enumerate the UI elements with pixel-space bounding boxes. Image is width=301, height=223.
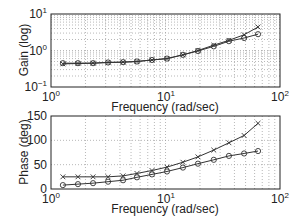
phase-xlabel: Frequency (rad/sec) — [111, 202, 218, 216]
x-marker — [227, 140, 232, 145]
phase-ytick-50: 50 — [34, 158, 48, 172]
bode-figure: 101 100 10−1 100 101 102 Frequency (rad/… — [0, 0, 301, 223]
phase-panel: 150 100 50 0 100 101 102 Frequency (rad/… — [17, 109, 289, 216]
gain-ylabel: Gain (log) — [17, 24, 31, 77]
phase-series — [60, 121, 260, 188]
phase-xtick-100: 102 — [271, 191, 289, 206]
phase-xtick-1: 100 — [42, 191, 60, 206]
x-marker — [196, 154, 201, 159]
gain-xtick-100: 102 — [271, 89, 289, 104]
gain-panel: 101 100 10−1 100 101 102 Frequency (rad/… — [17, 6, 289, 114]
x-marker — [242, 133, 247, 138]
x-marker — [211, 148, 216, 153]
gain-ytick-mid: 100 — [29, 43, 47, 58]
gain-series — [60, 25, 260, 67]
gain-xlabel: Frequency (rad/sec) — [111, 100, 218, 114]
gain-grid — [51, 14, 280, 87]
gain-xtick-1: 100 — [42, 89, 60, 104]
x-marker — [256, 121, 261, 126]
gain-ytick-top: 101 — [29, 6, 47, 21]
phase-grid — [51, 116, 280, 189]
phase-ylabel: Phase (deg) — [17, 119, 31, 184]
